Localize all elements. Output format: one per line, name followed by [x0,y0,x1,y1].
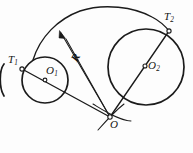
tangent-point-T1-dot [20,67,24,71]
label-O1: O1 [46,65,58,78]
radius-arrow-head-icon [59,31,66,39]
circle-2-center-dot [143,64,147,68]
label-T2: T2 [164,11,174,24]
tangent-point-T2-dot [167,29,171,33]
radius-arc [33,7,170,60]
edge-circle-fragment [0,64,4,96]
label-T1: T1 [8,54,18,67]
circle-1-center-dot [43,78,47,82]
label-O-apex: O [110,119,118,130]
geometry-figure: T1 T2 O1 O2 O R [0,0,193,153]
label-O2: O2 [148,60,160,73]
